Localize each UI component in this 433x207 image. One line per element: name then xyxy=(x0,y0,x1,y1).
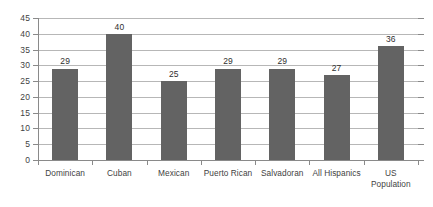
bar-value-label: 25 xyxy=(147,70,201,79)
bar-value-label: 36 xyxy=(364,35,418,44)
y-axis-tick-label: 45 xyxy=(4,14,30,23)
y-axis-tick-label: 35 xyxy=(4,46,30,55)
y-axis-tick-mark-right xyxy=(418,97,424,98)
bar-value-label: 27 xyxy=(309,64,363,73)
y-axis-tick-mark-right xyxy=(418,81,424,82)
y-axis-tick-mark-right xyxy=(418,50,424,51)
y-axis-tick-mark-right xyxy=(418,128,424,129)
bar-value-label: 29 xyxy=(38,57,92,66)
bar xyxy=(52,69,78,161)
y-axis-tick-label: 40 xyxy=(4,30,30,39)
bar-chart: 051015202530354045 29402529292736 Domini… xyxy=(0,0,433,207)
x-axis-line xyxy=(38,160,419,161)
y-axis-tick-mark-right xyxy=(418,144,424,145)
y-axis-tick-label: 15 xyxy=(4,109,30,118)
bar xyxy=(269,69,295,161)
bar xyxy=(378,46,404,160)
bar-value-label: 29 xyxy=(255,57,309,66)
y-axis-tick-mark-right xyxy=(418,113,424,114)
y-axis-tick-label: 10 xyxy=(4,124,30,133)
bar-value-label: 29 xyxy=(201,57,255,66)
y-axis-tick-label: 30 xyxy=(4,61,30,70)
bar xyxy=(324,75,350,160)
y-axis-tick-mark-right xyxy=(418,34,424,35)
y-axis-tick-label: 25 xyxy=(4,77,30,86)
bar xyxy=(215,69,241,161)
bar xyxy=(161,81,187,160)
y-axis-tick-mark-right xyxy=(418,65,424,66)
x-axis-tick-mark xyxy=(364,160,365,165)
y-axis-tick-label: 20 xyxy=(4,93,30,102)
y-axis-tick-mark-right xyxy=(418,18,424,19)
plot-area: 29402529292736 xyxy=(38,18,418,160)
x-axis-tick-mark xyxy=(418,160,419,165)
y-axis-tick-label: 5 xyxy=(4,140,30,149)
bar-value-label: 40 xyxy=(92,23,146,32)
x-axis-tick-mark xyxy=(255,160,256,165)
x-axis-tick-mark xyxy=(92,160,93,165)
bar xyxy=(106,34,132,160)
x-axis-tick-mark xyxy=(147,160,148,165)
x-axis-tick-mark xyxy=(309,160,310,165)
x-axis-category-label: US Population xyxy=(358,168,424,189)
x-axis-tick-mark xyxy=(201,160,202,165)
x-axis-tick-mark xyxy=(38,160,39,165)
y-axis-tick-label: 0 xyxy=(4,156,30,165)
